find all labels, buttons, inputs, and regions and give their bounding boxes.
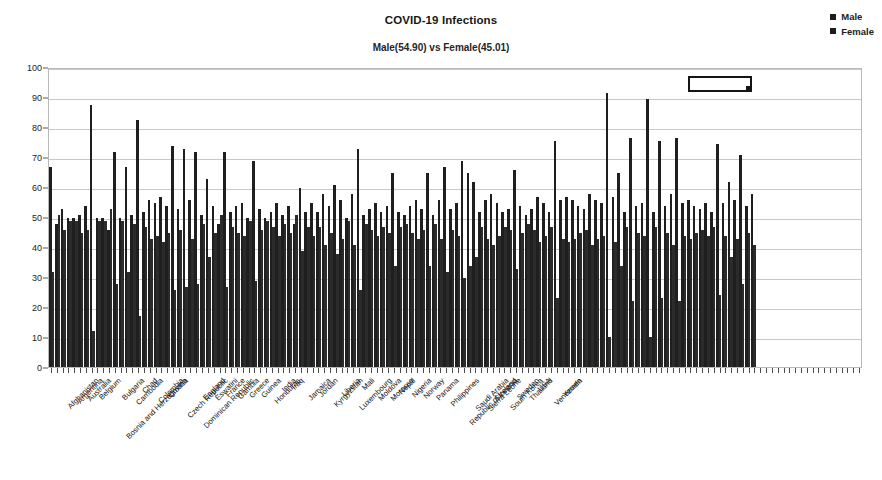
y-axis-tick-label: 50 — [32, 213, 42, 223]
x-axis-tick-mark — [853, 368, 854, 373]
x-axis-tick-mark — [330, 368, 331, 373]
x-axis-tick-mark — [440, 368, 441, 373]
x-axis-tick-mark — [847, 368, 848, 373]
x-axis-tick-mark — [487, 368, 488, 373]
x-axis-tick-mark — [789, 368, 790, 373]
x-axis-tick-mark — [388, 368, 389, 373]
x-axis-tick-mark — [429, 368, 430, 373]
covid-infections-chart: COVID-19 Infections Male(54.90) vs Femal… — [0, 0, 882, 480]
x-axis-tick-mark — [493, 368, 494, 373]
x-axis-tick-mark — [760, 368, 761, 373]
x-axis-tick-mark — [754, 368, 755, 373]
x-axis-tick-mark — [568, 368, 569, 373]
x-axis-tick-mark — [714, 368, 715, 373]
x-axis-tick-mark — [551, 368, 552, 373]
x-axis-tick-mark — [185, 368, 186, 373]
x-axis-tick-mark — [307, 368, 308, 373]
x-axis-tick-mark — [74, 368, 75, 373]
x-axis-tick-mark — [766, 368, 767, 373]
y-axis-tick-label: 20 — [32, 303, 42, 313]
x-axis-tick-mark — [214, 368, 215, 373]
x-axis-tick-mark — [510, 368, 511, 373]
x-axis-tick-mark — [522, 368, 523, 373]
x-axis-tick-mark — [720, 368, 721, 373]
bar-group[interactable] — [855, 69, 861, 367]
x-axis-tick-mark — [813, 368, 814, 373]
x-axis-tick-mark — [708, 368, 709, 373]
x-axis-tick-mark — [138, 368, 139, 373]
x-axis-tick-mark — [690, 368, 691, 373]
legend-item-female[interactable]: Female — [830, 27, 874, 37]
x-axis-tick-mark — [51, 368, 52, 373]
y-axis-tick-label: 90 — [32, 93, 42, 103]
x-axis-tick-mark — [592, 368, 593, 373]
x-axis: AfghanistanArgentinaAustraliaBelgiumBosn… — [48, 368, 862, 480]
x-axis-tick-mark — [685, 368, 686, 373]
x-axis-tick-mark — [394, 368, 395, 373]
x-axis-tick-mark — [725, 368, 726, 373]
bar-series-container — [49, 69, 861, 367]
x-axis-tick-mark — [859, 368, 860, 373]
x-axis-tick-mark — [80, 368, 81, 373]
x-axis-tick-mark — [499, 368, 500, 373]
x-axis-tick-mark — [644, 368, 645, 373]
x-axis-tick-mark — [475, 368, 476, 373]
x-axis-tick-mark — [464, 368, 465, 373]
x-axis-tick-mark — [807, 368, 808, 373]
x-axis-tick-mark — [278, 368, 279, 373]
x-axis-tick-mark — [225, 368, 226, 373]
x-axis-tick-mark — [371, 368, 372, 373]
y-axis-tick-label: 10 — [32, 333, 42, 343]
x-axis-tick-mark — [661, 368, 662, 373]
empty-callout-rectangle[interactable] — [688, 76, 752, 92]
x-axis-tick-mark — [295, 368, 296, 373]
y-axis-tick-label: 70 — [32, 153, 42, 163]
x-axis-tick-mark — [249, 368, 250, 373]
x-axis-tick-mark — [68, 368, 69, 373]
x-axis-tick-mark — [377, 368, 378, 373]
bar-male[interactable] — [90, 105, 93, 367]
x-axis-tick-mark — [86, 368, 87, 373]
x-axis-tick-mark — [574, 368, 575, 373]
y-axis-tick-label: 60 — [32, 183, 42, 193]
x-axis-tick-mark — [481, 368, 482, 373]
x-axis-tick-mark — [516, 368, 517, 373]
x-axis-tick-mark — [243, 368, 244, 373]
y-axis-tick-label: 40 — [32, 243, 42, 253]
x-axis-tick-mark — [656, 368, 657, 373]
x-axis-tick-mark — [231, 368, 232, 373]
x-axis-tick-mark — [400, 368, 401, 373]
x-axis-tick-mark — [836, 368, 837, 373]
x-axis-tick-mark — [342, 368, 343, 373]
x-axis-tick-mark — [324, 368, 325, 373]
legend-item-male[interactable]: Male — [830, 12, 862, 22]
bar-male[interactable] — [606, 93, 609, 367]
x-axis-tick-mark — [289, 368, 290, 373]
legend-label-male: Male — [841, 12, 862, 22]
x-axis-tick-mark — [190, 368, 191, 373]
square-marker-icon — [830, 14, 836, 20]
x-axis-tick-mark — [615, 368, 616, 373]
x-axis-tick-mark — [202, 368, 203, 373]
x-axis-tick-mark — [627, 368, 628, 373]
x-axis-tick-mark — [539, 368, 540, 373]
x-axis-tick-mark — [801, 368, 802, 373]
x-axis-tick-mark — [504, 368, 505, 373]
x-axis-tick-mark — [353, 368, 354, 373]
x-axis-tick-mark — [121, 368, 122, 373]
y-axis-tick-label: 0 — [37, 363, 42, 373]
x-axis-tick-mark — [237, 368, 238, 373]
x-axis-tick-mark — [673, 368, 674, 373]
x-axis-tick-mark — [563, 368, 564, 373]
x-axis-tick-mark — [132, 368, 133, 373]
x-axis-tick-mark — [411, 368, 412, 373]
x-axis-tick-mark — [318, 368, 319, 373]
x-axis-tick-mark — [545, 368, 546, 373]
x-axis-tick-mark — [109, 368, 110, 373]
x-axis-tick-mark — [97, 368, 98, 373]
annotation-resize-handle[interactable] — [746, 86, 752, 92]
x-axis-tick-mark — [597, 368, 598, 373]
x-axis-tick-mark — [667, 368, 668, 373]
x-axis-tick-mark — [772, 368, 773, 373]
bar-male[interactable] — [646, 99, 649, 367]
